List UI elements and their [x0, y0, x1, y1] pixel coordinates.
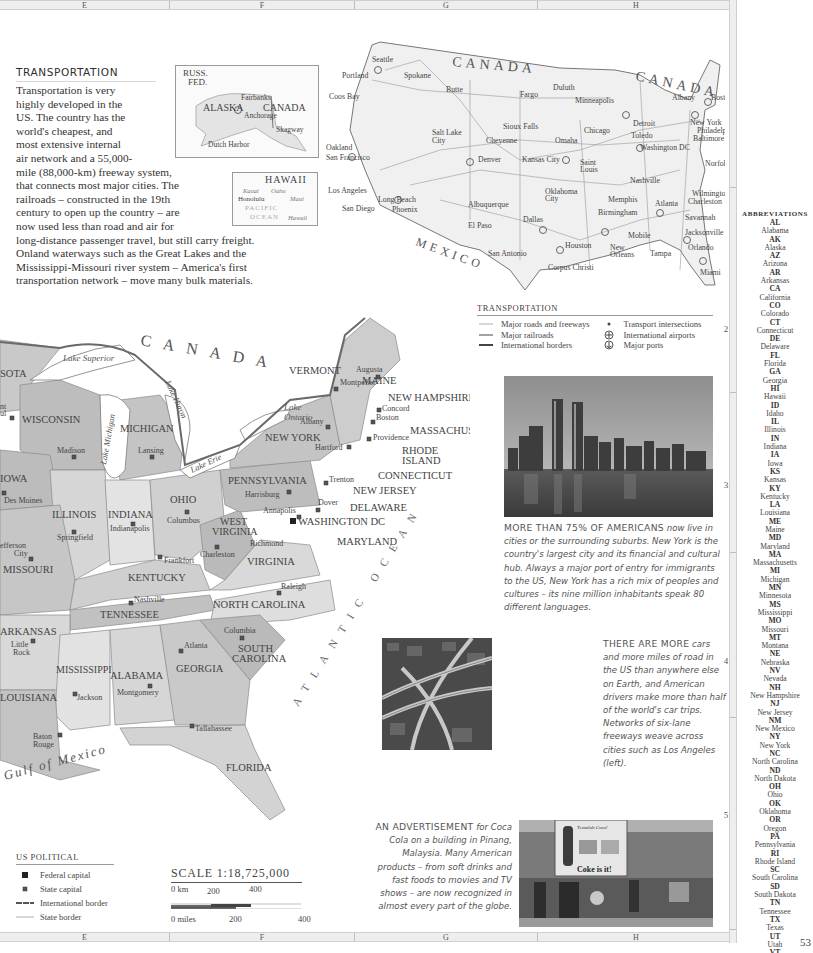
- legend-title: US POLITICAL: [16, 852, 114, 865]
- grid-column-bar-top: E F G H: [0, 0, 735, 10]
- svg-text:GEORGIA: GEORGIA: [176, 663, 224, 674]
- svg-text:Dallas: Dallas: [523, 215, 543, 224]
- legend-item: State capital: [16, 882, 114, 896]
- svg-text:ARKANSAS: ARKANSAS: [0, 626, 57, 637]
- grid-column-g: G: [355, 933, 538, 941]
- road-line-icon: [477, 322, 495, 326]
- rail-line-icon: [477, 333, 495, 337]
- svg-text:SOTA: SOTA: [0, 368, 27, 379]
- svg-text:ISLAND: ISLAND: [402, 455, 441, 466]
- abbreviation-entry: GAGeorgia: [737, 368, 813, 385]
- svg-text:LOUISIANA: LOUISIANA: [0, 692, 58, 703]
- svg-text:Louis: Louis: [580, 165, 598, 174]
- svg-text:CANADA: CANADA: [139, 331, 280, 372]
- legend-item: Major roads and freeways: [477, 319, 590, 330]
- svg-text:Minneapolis: Minneapolis: [575, 96, 614, 105]
- svg-text:Coos Bay: Coos Bay: [329, 92, 360, 101]
- grid-row-3: 3: [722, 480, 730, 490]
- abbreviation-entry: NCNorth Carolina: [737, 750, 813, 767]
- svg-text:Memphis: Memphis: [608, 195, 637, 204]
- svg-text:Orlando: Orlando: [688, 243, 714, 252]
- legend-item: Transport intersections: [600, 319, 702, 330]
- svg-text:Rouge: Rouge: [33, 740, 54, 749]
- svg-text:Corpus Christi: Corpus Christi: [548, 263, 595, 272]
- svg-text:Springfield: Springfield: [57, 533, 93, 542]
- abbreviation-entry: NDNorth Dakota: [737, 767, 813, 784]
- new-york-caption: MORE THAN 75% OF AMERICANS now live in c…: [504, 521, 722, 614]
- svg-text:Kansas City: Kansas City: [522, 155, 560, 164]
- abbreviation-entry: TXTexas: [737, 916, 813, 933]
- svg-text:San Diego: San Diego: [342, 204, 375, 213]
- grid-column-f: F: [170, 1, 355, 9]
- svg-text:Spokane: Spokane: [404, 71, 431, 80]
- svg-text:Trenton: Trenton: [329, 475, 354, 484]
- abbreviation-entry: FLFlorida: [737, 352, 813, 369]
- svg-text:KENTUCKY: KENTUCKY: [128, 572, 186, 583]
- abbreviation-entry: INIndiana: [737, 435, 813, 452]
- state-indiana: [105, 480, 155, 565]
- legend-item: International borders: [477, 340, 590, 351]
- svg-text:Atlanta: Atlanta: [184, 641, 208, 650]
- scale-km-400: 400: [249, 884, 262, 894]
- svg-text:VERMONT: VERMONT: [289, 365, 342, 376]
- abbreviation-entry: MAMassachusetts: [737, 551, 813, 568]
- svg-text:Augusta: Augusta: [356, 365, 383, 374]
- svg-text:Jacksonville: Jacksonville: [685, 228, 724, 237]
- svg-text:Lake Superior: Lake Superior: [62, 353, 115, 363]
- svg-text:Richmond: Richmond: [250, 539, 283, 548]
- svg-text:Columbus: Columbus: [167, 516, 200, 525]
- grid-column-e: E: [0, 1, 170, 9]
- abbreviation-entry: DEDelaware: [737, 335, 813, 352]
- svg-text:FLORIDA: FLORIDA: [226, 762, 272, 773]
- svg-text:City: City: [432, 136, 446, 145]
- grid-row-bar: 2 3 4 5: [729, 0, 737, 943]
- svg-text:Chicago: Chicago: [584, 126, 610, 135]
- svg-text:Oakland: Oakland: [326, 143, 353, 152]
- abbreviation-entry: IDIdaho: [737, 402, 813, 419]
- abbreviation-entry: NMNew Mexico: [737, 717, 813, 734]
- svg-text:Toledo: Toledo: [631, 131, 653, 140]
- grid-column-h: H: [538, 933, 735, 941]
- grid-column-f: F: [170, 933, 355, 941]
- grid-column-g: G: [355, 1, 538, 9]
- alaska-inset-map: RUSS. FED. ALASKA CANADA Fairbanks Ancho…: [175, 65, 319, 158]
- state-code: VT: [737, 949, 813, 953]
- svg-text:Columbia: Columbia: [224, 626, 256, 635]
- svg-text:Baltimore: Baltimore: [693, 134, 725, 143]
- svg-text:MICHIGAN: MICHIGAN: [120, 423, 174, 434]
- svg-text:Montgomery: Montgomery: [117, 688, 159, 697]
- international-border-icon: [16, 901, 34, 905]
- scale-mile-400: 400: [298, 914, 311, 924]
- hawaii-inset-map: HAWAII Kauai Oahu Honolulu Maui PACIFIC …: [232, 172, 318, 226]
- intersection-dot-icon: [600, 320, 618, 328]
- legend-item: Major railroads: [477, 330, 590, 341]
- scale-km-200: 200: [207, 886, 220, 896]
- scale-mile-200: 200: [229, 914, 242, 924]
- svg-text:VIRGINIA: VIRGINIA: [247, 556, 295, 567]
- svg-text:Washington DC: Washington DC: [640, 143, 690, 152]
- page-number: 53: [800, 936, 811, 948]
- abbreviation-entry: OKOklahoma: [737, 800, 813, 817]
- svg-text:Albuquerque: Albuquerque: [468, 200, 509, 209]
- svg-text:VIRGINIA: VIRGINIA: [212, 526, 258, 537]
- abbreviation-entry: NJNew Jersey: [737, 700, 813, 717]
- svg-text:El Paso: El Paso: [468, 221, 492, 230]
- svg-text:City: City: [545, 194, 559, 203]
- svg-text:IOWA: IOWA: [0, 473, 28, 484]
- abbreviation-entry: MSMississippi: [737, 601, 813, 618]
- svg-text:Savannah: Savannah: [685, 213, 715, 222]
- state-mississippi: [55, 630, 110, 730]
- svg-text:Nashville: Nashville: [630, 176, 660, 185]
- los-angeles-freeways-photo: [382, 638, 492, 750]
- svg-text:Miami: Miami: [700, 268, 722, 277]
- legend-title: TRANSPORTATION: [477, 303, 713, 316]
- svg-text:ul: ul: [0, 409, 7, 418]
- border-line-icon: [477, 343, 495, 347]
- svg-text:Annapolis: Annapolis: [263, 506, 296, 515]
- svg-text:Madison: Madison: [57, 446, 85, 455]
- scale-km-0: 0 km: [171, 884, 188, 894]
- svg-text:Mobile: Mobile: [628, 231, 651, 240]
- abbreviation-entry: COColorado: [737, 302, 813, 319]
- federal-capital-marker: [290, 518, 296, 524]
- svg-text:Duluth: Duluth: [553, 83, 575, 92]
